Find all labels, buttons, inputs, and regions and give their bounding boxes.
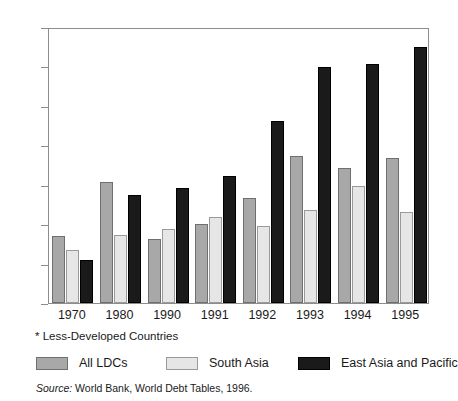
x-tick-label: 1993: [286, 308, 334, 322]
x-tick-label: 1970: [48, 308, 96, 322]
bar-group: [192, 29, 240, 303]
bar: [195, 224, 208, 303]
bar: [114, 235, 127, 303]
legend-item-east-asia-pacific: East Asia and Pacific: [298, 354, 458, 372]
x-axis: 19701980199019911992199319941995: [48, 308, 429, 326]
y-tick-mark: [41, 265, 48, 266]
y-tick-mark: [41, 146, 48, 147]
legend-swatch-east-asia-pacific: [298, 357, 330, 370]
bar-group: [382, 29, 430, 303]
bar-group: [49, 29, 97, 303]
x-tick-label: 1991: [191, 308, 239, 322]
bar: [162, 229, 175, 303]
bar: [243, 198, 256, 303]
y-tick-mark: [41, 28, 48, 29]
bar: [176, 188, 189, 303]
x-tick-label: 1995: [381, 308, 429, 322]
y-tick-mark: [41, 67, 48, 68]
legend-swatch-south-asia: [166, 357, 198, 370]
bar: [257, 226, 270, 303]
bar: [386, 158, 399, 303]
chart-legend: All LDCs South Asia East Asia and Pacifi…: [36, 354, 436, 374]
x-tick-label: 1994: [334, 308, 382, 322]
bar: [366, 64, 379, 303]
y-tick-mark: [41, 186, 48, 187]
bars-layer: [49, 29, 428, 303]
y-tick-mark: [41, 225, 48, 226]
bar-group: [240, 29, 288, 303]
legend-item-all-ldcs: All LDCs: [36, 354, 128, 372]
bar: [304, 210, 317, 303]
bar: [352, 186, 365, 303]
bar: [400, 212, 413, 303]
legend-label-south-asia: South Asia: [209, 356, 269, 370]
x-tick-label: 1980: [96, 308, 144, 322]
bar-group: [335, 29, 383, 303]
bar: [100, 182, 113, 303]
bar: [209, 217, 222, 303]
legend-swatch-all-ldcs: [36, 357, 68, 370]
plot-area: [48, 28, 429, 304]
bar-group: [144, 29, 192, 303]
bar: [148, 239, 161, 303]
source-note: Source: World Bank, World Debt Tables, 1…: [36, 382, 253, 394]
bar: [318, 67, 331, 303]
bar: [290, 156, 303, 303]
bar: [128, 195, 141, 303]
bar: [414, 47, 427, 303]
bar: [80, 260, 93, 303]
bar: [271, 121, 284, 303]
bar: [52, 236, 65, 303]
legend-label-east-asia-pacific: East Asia and Pacific: [341, 356, 458, 370]
y-tick-mark: [41, 304, 48, 305]
bar-group: [287, 29, 335, 303]
bar: [223, 176, 236, 303]
footnote: * Less-Developed Countries: [35, 330, 178, 342]
source-text: World Bank, World Debt Tables, 1996.: [72, 382, 252, 394]
x-tick-label: 1990: [143, 308, 191, 322]
bar: [338, 168, 351, 303]
bar-group: [97, 29, 145, 303]
y-tick-mark: [41, 107, 48, 108]
bar: [66, 250, 79, 303]
source-prefix: Source:: [36, 382, 72, 394]
x-tick-label: 1992: [239, 308, 287, 322]
legend-label-all-ldcs: All LDCs: [79, 356, 128, 370]
legend-item-south-asia: South Asia: [166, 354, 269, 372]
